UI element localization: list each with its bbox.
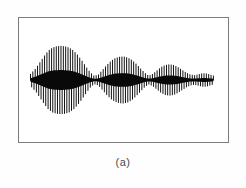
- figure-caption: (a): [0, 155, 246, 169]
- waveform-plot: [19, 18, 228, 142]
- plot-frame: [18, 17, 229, 143]
- figure-container: (a): [0, 0, 246, 188]
- waveform-trace: [30, 46, 214, 114]
